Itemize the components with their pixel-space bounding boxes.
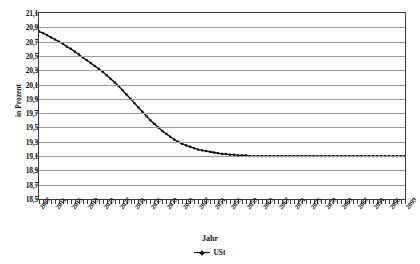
data-point-marker: [213, 151, 215, 153]
data-point-marker: [209, 151, 211, 153]
data-point-marker: [153, 123, 155, 125]
data-point-marker: [197, 149, 199, 151]
data-point-marker: [121, 89, 123, 91]
data-point-marker: [50, 36, 52, 38]
data-point-marker: [94, 65, 96, 67]
data-point-marker: [137, 106, 139, 108]
data-point-marker: [149, 119, 151, 121]
data-point-marker: [217, 152, 219, 154]
gridline: [39, 42, 405, 43]
data-point-marker: [74, 51, 76, 53]
gridline: [39, 127, 405, 128]
x-axis-tick-label: 2099: [404, 196, 417, 210]
data-point-marker: [205, 150, 207, 152]
legend-label-ust: USt: [213, 248, 225, 257]
x-axis-tick-mark: [369, 200, 370, 204]
data-point-marker: [193, 147, 195, 149]
data-point-marker: [90, 62, 92, 64]
data-point-marker: [54, 38, 56, 40]
x-axis-tick-mark: [385, 200, 386, 204]
x-axis-tick-mark: [194, 200, 195, 204]
plot-area: [38, 12, 406, 200]
gridline: [39, 185, 405, 186]
x-axis-tick-mark: [162, 200, 163, 204]
gridline: [39, 70, 405, 71]
data-point-marker: [169, 136, 171, 138]
gridline: [39, 156, 405, 157]
data-point-marker: [221, 153, 223, 155]
data-point-marker: [185, 144, 187, 146]
data-point-marker: [165, 133, 167, 135]
data-point-marker: [113, 81, 115, 83]
gridline: [39, 142, 405, 143]
legend-marker-ust: [194, 249, 210, 256]
chart-container: in Prozent 21,120,920,720,520,320,119,91…: [0, 0, 420, 264]
data-point-marker: [42, 32, 44, 34]
data-point-marker: [173, 139, 175, 141]
data-point-marker: [225, 153, 227, 155]
data-point-marker: [62, 43, 64, 45]
gridline: [39, 85, 405, 86]
data-point-marker: [125, 93, 127, 95]
gridline: [39, 99, 405, 100]
data-point-marker: [110, 78, 112, 80]
x-axis-tick-mark: [337, 200, 338, 204]
data-point-marker: [86, 59, 88, 61]
data-point-marker: [133, 102, 135, 104]
data-point-marker: [46, 34, 48, 36]
x-axis-tick-mark: [401, 200, 402, 204]
x-axis-title: Jahr: [0, 234, 420, 243]
data-point-marker: [106, 74, 108, 76]
x-axis-tick-mark: [226, 200, 227, 204]
data-point-marker: [39, 31, 40, 33]
gridline: [39, 56, 405, 57]
data-point-marker: [189, 146, 191, 148]
series-line: [39, 32, 405, 156]
chart-legend: USt: [0, 248, 420, 257]
gridline: [39, 113, 405, 114]
data-point-marker: [181, 143, 183, 145]
data-point-marker: [201, 149, 203, 151]
data-point-marker: [70, 48, 72, 50]
x-axis-tick-mark: [178, 200, 179, 204]
data-point-marker: [161, 130, 163, 132]
x-axis-tick-mark: [146, 200, 147, 204]
x-axis-tick-mark: [353, 200, 354, 204]
data-point-marker: [66, 46, 68, 48]
data-point-marker: [145, 115, 147, 117]
gridline: [39, 27, 405, 28]
x-axis-tick-mark: [210, 200, 211, 204]
gridline: [39, 170, 405, 171]
